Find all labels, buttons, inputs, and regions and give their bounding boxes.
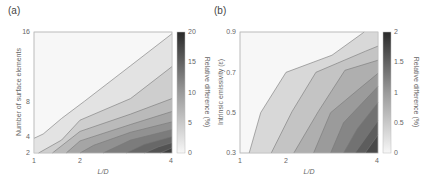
cbar-a-tick-10: 10 bbox=[188, 89, 196, 96]
ytick-a-16: 16 bbox=[22, 28, 30, 35]
cbar-b-tick-1.5: 1.5 bbox=[394, 58, 404, 65]
xlabel-a: L/D bbox=[98, 168, 109, 175]
ylabel-b: Intrinsic emissivity (ε) bbox=[217, 59, 225, 125]
ytick-b-0.3: 0.3 bbox=[226, 149, 236, 156]
panel-b: (b) 0.3 0.5 0.7 0.9 1 2 4 L/D Intrinsic … bbox=[214, 5, 420, 175]
colorbar-a bbox=[177, 32, 185, 153]
ytick-a-8: 8 bbox=[26, 98, 30, 105]
cbar-a-label: Relative difference (%) bbox=[203, 57, 211, 128]
ytick-b-0.5: 0.5 bbox=[226, 109, 236, 116]
panel-a-label: (a) bbox=[8, 5, 20, 16]
cbar-a-tick-0: 0 bbox=[188, 149, 192, 156]
xtick-b-1: 1 bbox=[238, 157, 242, 164]
panel-a: (a) 2 4 8 16 1 2 4 L/D Number of surface… bbox=[8, 5, 211, 175]
panel-b-label: (b) bbox=[214, 5, 226, 16]
figure: (a) 2 4 8 16 1 2 4 L/D Number of surface… bbox=[0, 0, 423, 181]
ytick-b-0.7: 0.7 bbox=[226, 69, 236, 76]
cbar-b-tick-1: 1 bbox=[394, 89, 398, 96]
cbar-a-tick-15: 15 bbox=[188, 58, 196, 65]
cbar-b-tick-2: 2 bbox=[394, 28, 398, 35]
cbar-b-tick-0: 0 bbox=[394, 149, 398, 156]
cbar-a-tick-5: 5 bbox=[188, 119, 192, 126]
cbar-b-tick-0.5: 0.5 bbox=[394, 119, 404, 126]
cbar-a-tick-20: 20 bbox=[188, 28, 196, 35]
xtick-b-2: 2 bbox=[284, 157, 288, 164]
xlabel-b: L/D bbox=[304, 168, 315, 175]
xtick-a-1: 1 bbox=[32, 157, 36, 164]
xtick-b-4: 4 bbox=[375, 157, 379, 164]
ylabel-a: Number of surface elements bbox=[15, 48, 22, 136]
xtick-a-2: 2 bbox=[78, 157, 82, 164]
ytick-a-2: 2 bbox=[26, 149, 30, 156]
xtick-a-4: 4 bbox=[169, 157, 173, 164]
ytick-b-0.9: 0.9 bbox=[226, 28, 236, 35]
ytick-a-4: 4 bbox=[26, 133, 30, 140]
cbar-b-label: Relative difference (%) bbox=[412, 57, 420, 128]
colorbar-b bbox=[383, 32, 391, 153]
